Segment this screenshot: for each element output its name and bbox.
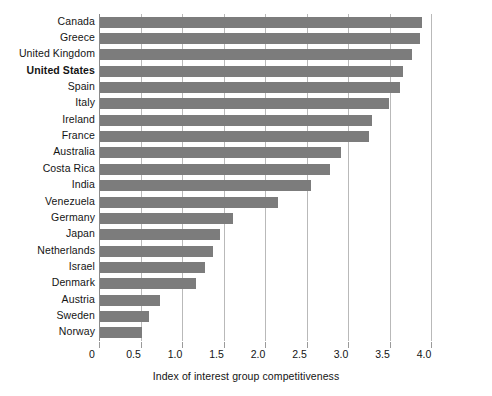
x-axis-ticks: 00.51.01.52.02.53.03.54.0	[99, 342, 439, 364]
gridline-4.0	[431, 14, 432, 341]
category-label: Venezuela	[0, 196, 95, 207]
bar	[100, 33, 420, 44]
category-label: Germany	[0, 212, 95, 223]
bar	[100, 147, 341, 158]
bar	[100, 98, 389, 109]
category-label: United States	[0, 65, 95, 76]
category-label: Italy	[0, 97, 95, 108]
gridline-2.0	[265, 14, 266, 341]
category-label: Ireland	[0, 114, 95, 125]
category-label: France	[0, 130, 95, 141]
category-label: Netherlands	[0, 245, 95, 256]
category-label: Costa Rica	[0, 163, 95, 174]
plot-area	[99, 14, 431, 341]
category-label: Austria	[0, 294, 95, 305]
chart-figure: CanadaGreeceUnited KingdomUnited StatesS…	[0, 0, 492, 396]
bar	[100, 164, 330, 175]
bar	[100, 246, 213, 257]
category-label: Israel	[0, 261, 95, 272]
bar	[100, 295, 160, 306]
gridline-3.0	[348, 14, 349, 341]
x-tick-label: 2.5	[292, 348, 307, 361]
category-label: Australia	[0, 146, 95, 157]
bar	[100, 327, 142, 338]
x-tick-label: 4.0	[417, 348, 432, 361]
x-tick-label: 1.5	[209, 348, 224, 361]
category-label: Norway	[0, 326, 95, 337]
x-axis-title: Index of interest group competitiveness	[0, 370, 492, 382]
gridline-3.5	[390, 14, 391, 341]
bar	[100, 311, 149, 322]
category-label: United Kingdom	[0, 48, 95, 59]
bar	[100, 213, 233, 224]
x-tick-label: 2.0	[251, 348, 266, 361]
category-label: Spain	[0, 81, 95, 92]
category-label: Sweden	[0, 310, 95, 321]
bar	[100, 17, 422, 28]
x-tick-label: 3.0	[334, 348, 349, 361]
bar	[100, 229, 220, 240]
bar	[100, 115, 372, 126]
bar	[100, 197, 278, 208]
category-label: Greece	[0, 32, 95, 43]
x-tick-label: 3.5	[375, 348, 390, 361]
bar	[100, 278, 196, 289]
value-axis-baseline	[99, 14, 100, 341]
category-axis-labels: CanadaGreeceUnited KingdomUnited StatesS…	[0, 14, 95, 341]
x-tick-label: 0	[89, 348, 95, 361]
category-label: India	[0, 179, 95, 190]
gridline-1.0	[182, 14, 183, 341]
category-label: Denmark	[0, 277, 95, 288]
bar	[100, 66, 403, 77]
category-label: Canada	[0, 16, 95, 27]
x-tick-mark	[99, 342, 100, 348]
gridline-2.5	[307, 14, 308, 341]
bar	[100, 180, 311, 191]
x-tick-label: 0.5	[126, 348, 141, 361]
x-tick-label: 1.0	[168, 348, 183, 361]
gridline-0.5	[141, 14, 142, 341]
bar	[100, 131, 369, 142]
gridline-1.5	[224, 14, 225, 341]
bar	[100, 49, 412, 60]
category-label: Japan	[0, 228, 95, 239]
bar	[100, 82, 400, 93]
bar	[100, 262, 205, 273]
